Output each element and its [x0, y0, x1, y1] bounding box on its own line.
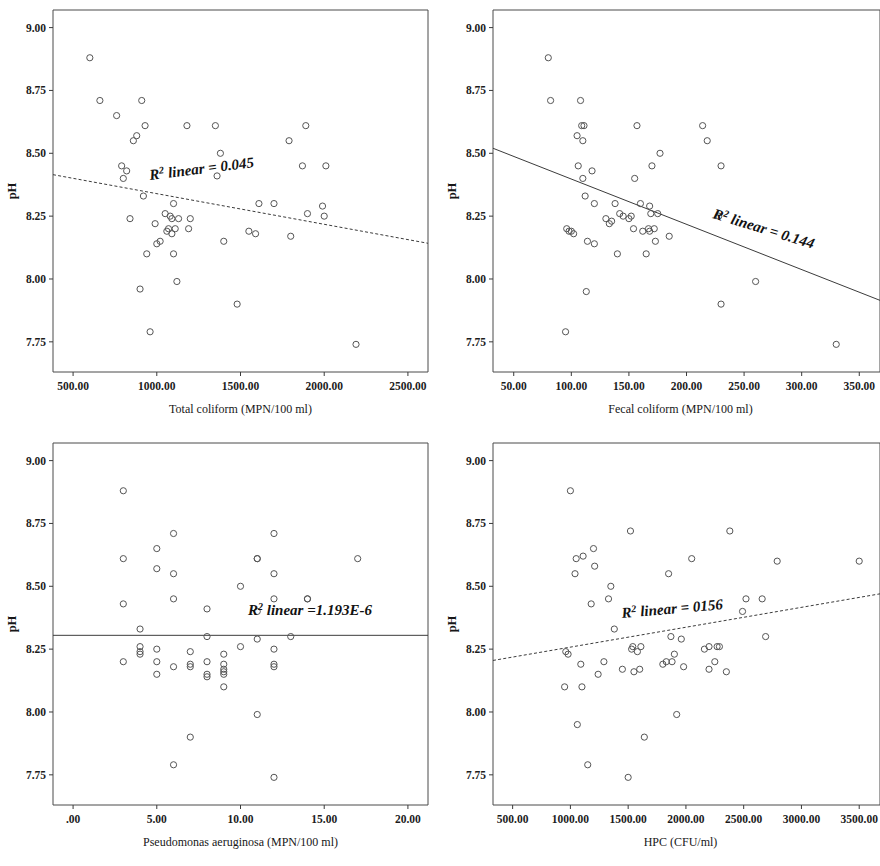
data-point: [139, 97, 145, 103]
r2-annotation-text: R2 linear =1.193E-6: [247, 601, 372, 618]
y-tick-label: 7.75: [466, 336, 486, 348]
data-point: [630, 226, 636, 232]
data-point: [601, 659, 607, 665]
y-tick-label: 8.75: [26, 84, 46, 96]
data-point: [590, 545, 596, 551]
data-point: [584, 238, 590, 244]
data-point: [187, 649, 193, 655]
data-point: [321, 213, 327, 219]
data-point: [575, 163, 581, 169]
data-point: [217, 150, 223, 156]
data-point: [299, 163, 305, 169]
data-point: [669, 659, 675, 665]
data-point: [221, 684, 227, 690]
y-tick-label: 8.50: [26, 147, 46, 159]
data-point: [120, 175, 126, 181]
data-point: [632, 175, 638, 181]
data-point: [319, 203, 325, 209]
data-point: [134, 133, 140, 139]
data-point: [647, 203, 653, 209]
data-point: [120, 488, 126, 494]
data-point: [753, 278, 759, 284]
data-point: [237, 644, 243, 650]
data-point: [573, 556, 579, 562]
x-tick-label: 2500.00: [725, 813, 763, 825]
data-point: [612, 200, 618, 206]
data-point: [154, 545, 160, 551]
data-point: [572, 571, 578, 577]
y-axis-label: pH: [5, 182, 19, 199]
data-point: [856, 558, 862, 564]
plot-total-coliform: 7.758.008.258.508.759.00500.001000.00150…: [0, 0, 440, 433]
data-point: [204, 606, 210, 612]
data-point: [631, 669, 637, 675]
data-point: [739, 608, 745, 614]
r2-annotation: R2 linear = 0.144: [710, 204, 817, 251]
data-point: [234, 301, 240, 307]
data-point: [288, 633, 294, 639]
y-tick-label: 8.00: [26, 706, 46, 718]
regression-line: [493, 148, 880, 300]
data-point: [119, 163, 125, 169]
y-tick-label: 9.00: [466, 22, 486, 34]
data-point: [704, 138, 710, 144]
data-point: [743, 596, 749, 602]
data-point: [643, 251, 649, 257]
r2-annotation-text: R2 linear = 0.144: [710, 204, 817, 251]
data-point: [154, 566, 160, 572]
data-point: [638, 644, 644, 650]
x-tick-label: 250.00: [728, 380, 760, 392]
data-point: [87, 55, 93, 61]
y-tick-label: 8.25: [466, 643, 486, 655]
x-tick-label: 2000.00: [667, 813, 705, 825]
x-tick-label: 350.00: [843, 380, 875, 392]
x-axis-label: Total coliform (MPN/100 ml): [169, 402, 312, 416]
data-point: [649, 163, 655, 169]
data-point: [627, 528, 633, 534]
data-point: [286, 138, 292, 144]
r2-annotation-text: R2 linear = 0.045: [147, 153, 255, 183]
data-point: [154, 646, 160, 652]
data-point: [271, 571, 277, 577]
data-point: [678, 636, 684, 642]
x-axis-label: Pseudomonas aeruginosa (MPN/100 ml): [143, 835, 338, 849]
x-tick-label: 20.00: [395, 813, 421, 825]
data-point: [634, 123, 640, 129]
x-tick-label: 1000.00: [552, 813, 590, 825]
x-tick-label: 100.00: [556, 380, 588, 392]
data-point: [718, 163, 724, 169]
panel-total-coliform: 7.758.008.258.508.759.00500.001000.00150…: [0, 0, 440, 433]
data-point: [640, 228, 646, 234]
data-point: [246, 228, 252, 234]
data-point: [619, 666, 625, 672]
data-point: [187, 734, 193, 740]
data-point: [170, 200, 176, 206]
data-point: [271, 200, 277, 206]
x-tick-label: 10.00: [228, 813, 254, 825]
data-point: [137, 626, 143, 632]
y-tick-label: 8.25: [26, 643, 46, 655]
r2-annotation: R2 linear = 0.045: [147, 153, 255, 183]
data-point: [170, 596, 176, 602]
plot-fecal-coliform: 7.758.008.258.508.759.0050.00100.00150.0…: [440, 0, 880, 433]
data-point: [271, 530, 277, 536]
data-point: [614, 251, 620, 257]
x-tick-label: 3000.00: [783, 813, 821, 825]
y-tick-label: 8.00: [466, 273, 486, 285]
data-point: [172, 226, 178, 232]
data-point: [648, 211, 654, 217]
data-point: [170, 251, 176, 257]
r2-annotation: R2 linear =1.193E-6: [247, 601, 372, 618]
data-point: [666, 233, 672, 239]
y-tick-label: 7.75: [466, 769, 486, 781]
data-point: [127, 216, 133, 222]
data-point: [589, 168, 595, 174]
data-point: [271, 774, 277, 780]
plot-frame: [53, 10, 428, 372]
data-point: [288, 233, 294, 239]
data-point: [144, 251, 150, 257]
data-point: [641, 734, 647, 740]
y-tick-label: 8.00: [26, 273, 46, 285]
data-point: [545, 55, 551, 61]
data-point: [120, 556, 126, 562]
